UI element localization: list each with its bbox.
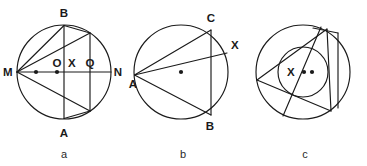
dot-inner-left: [302, 70, 306, 74]
label-b: B: [60, 7, 69, 19]
label-o: O: [52, 57, 61, 69]
chord-a-to-c: [135, 30, 212, 75]
dot-center: [179, 70, 183, 74]
label-m: M: [3, 66, 13, 78]
label-a: A: [129, 78, 138, 90]
caption-c: c: [302, 148, 308, 160]
label-c: C: [207, 12, 216, 24]
dot-left: [34, 70, 38, 74]
dot-inner-right: [310, 70, 314, 74]
label-x: X: [68, 57, 76, 69]
label-x: X: [287, 66, 295, 78]
panel-b: A C B X b: [125, 0, 245, 166]
chord-top-right: [313, 28, 338, 33]
caption-b: b: [180, 148, 186, 160]
label-a: A: [60, 127, 69, 139]
panel-a: M N B A O X Q a: [0, 0, 130, 166]
chord-a-to-b: [135, 75, 212, 115]
label-x: X: [231, 39, 239, 51]
panel-c: X c: [243, 0, 367, 166]
label-n: N: [114, 66, 123, 78]
label-q: Q: [85, 57, 94, 69]
geometry-figure: M N B A O X Q a A C B X b: [0, 0, 367, 166]
caption-a: a: [61, 148, 68, 160]
chord-m-to-lower-right: [17, 72, 90, 111]
label-b: B: [206, 120, 215, 132]
chord-triangle-left-to-bottomright: [257, 80, 331, 111]
dot-center: [55, 70, 59, 74]
